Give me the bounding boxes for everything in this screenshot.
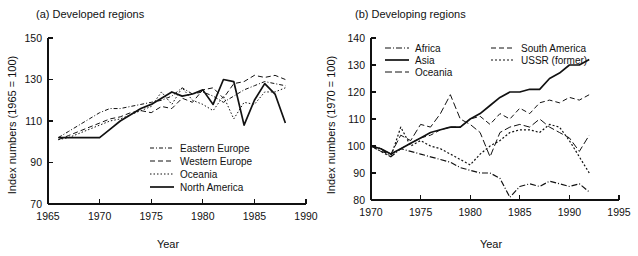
legend-item-asia[interactable]: Asia	[385, 55, 435, 66]
legend-item-oceania[interactable]: Oceania	[150, 169, 218, 180]
legend-label: Eastern Europe	[180, 143, 250, 154]
x-axis-title-a: Year	[157, 238, 180, 250]
y-tick-group-b	[371, 38, 376, 200]
legend-label: North America	[180, 182, 244, 193]
y-tick-label-70: 70	[30, 198, 42, 210]
series-group-a	[58, 75, 285, 139]
x-tick-label-1980: 1980	[191, 210, 215, 222]
y-tick-label-120: 120	[347, 86, 365, 98]
y-tick-label-90: 90	[30, 156, 42, 168]
x-tick-group-a	[48, 199, 306, 204]
panel-a-title: (a) Developed regions	[36, 8, 145, 20]
y-tick-label-150: 150	[24, 32, 42, 44]
y-tick-label-140: 140	[347, 32, 365, 44]
chart-svg-a: (a) Developed regions 7090110130150 1965…	[0, 0, 319, 256]
x-axis-title-b: Year	[480, 238, 503, 250]
x-tick-label-1970: 1970	[88, 210, 112, 222]
x-tick-label-1990: 1990	[558, 206, 582, 218]
panel-a-axes	[48, 38, 306, 204]
chart-panel-developed: (a) Developed regions 7090110130150 1965…	[0, 0, 319, 256]
legend-label: Oceania	[180, 169, 218, 180]
legend-label: Oceania	[415, 67, 453, 78]
y-tick-label-130: 130	[24, 73, 42, 85]
series-line-ussr-former	[371, 124, 589, 173]
y-tick-label-90: 90	[353, 167, 365, 179]
x-tick-label-1975: 1975	[140, 210, 164, 222]
x-tick-label-1985: 1985	[508, 206, 532, 218]
figure-root: (a) Developed regions 7090110130150 1965…	[0, 0, 638, 256]
legend-item-north-america[interactable]: North America	[150, 182, 244, 193]
legend-label: Asia	[415, 55, 435, 66]
x-tick-label-1995: 1995	[607, 206, 631, 218]
y-tick-group-a	[48, 38, 53, 204]
x-tick-label-group-b: 197019751980198519901995	[359, 206, 631, 218]
legend-b[interactable]: AfricaAsiaOceaniaSouth AmericaUSSR (form…	[385, 43, 587, 78]
chart-svg-b: (b) Developing regions 80901001101201301…	[319, 0, 638, 256]
y-tick-label-group-b: 8090100110120130140	[347, 32, 365, 206]
legend-label: Western Europe	[180, 156, 253, 167]
x-tick-label-1975: 1975	[409, 206, 433, 218]
series-line-south-america	[371, 95, 589, 154]
panel-b-title: (b) Developing regions	[355, 8, 466, 20]
y-tick-label-110: 110	[348, 113, 365, 125]
y-tick-label-group-a: 7090110130150	[24, 32, 42, 210]
chart-panel-developing: (b) Developing regions 80901001101201301…	[319, 0, 638, 256]
series-line-asia	[371, 60, 589, 155]
legend-item-africa[interactable]: Africa	[385, 43, 441, 54]
x-tick-label-1965: 1965	[36, 210, 60, 222]
legend-item-oceania[interactable]: Oceania	[385, 67, 453, 78]
y-tick-label-100: 100	[347, 140, 365, 152]
legend-label: Africa	[415, 43, 441, 54]
y-axis-title-b: Index numbers (1970 = 100)	[325, 56, 337, 195]
legend-item-south-america[interactable]: South America	[491, 43, 586, 54]
x-tick-label-group-a: 196519701975198019851990	[36, 210, 318, 222]
y-tick-label-110: 110	[25, 115, 42, 127]
series-group-b	[371, 60, 589, 198]
legend-a[interactable]: Eastern EuropeWestern EuropeOceaniaNorth…	[150, 143, 253, 193]
legend-item-western-europe[interactable]: Western Europe	[150, 156, 253, 167]
x-tick-label-1980: 1980	[459, 206, 483, 218]
legend-item-eastern-europe[interactable]: Eastern Europe	[150, 143, 250, 154]
legend-item-ussr-former[interactable]: USSR (former)	[491, 55, 587, 66]
y-tick-label-130: 130	[347, 59, 365, 71]
x-tick-label-1985: 1985	[243, 210, 267, 222]
y-tick-label-80: 80	[353, 194, 365, 206]
x-tick-group-b	[371, 195, 619, 200]
x-tick-label-1990: 1990	[294, 210, 318, 222]
x-tick-label-1970: 1970	[359, 206, 383, 218]
y-axis-title-a: Index numbers (1965 = 100)	[6, 56, 18, 195]
legend-label: USSR (former)	[521, 55, 587, 66]
legend-label: South America	[521, 43, 586, 54]
